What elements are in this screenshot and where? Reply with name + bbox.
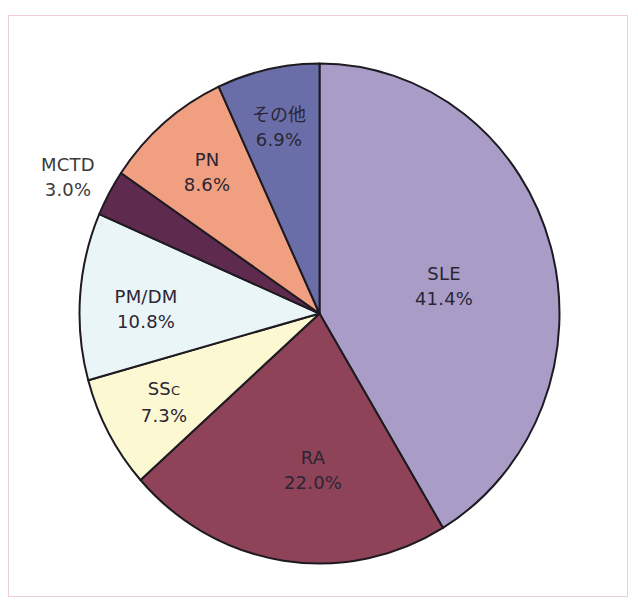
slice-name: PN [184, 147, 231, 172]
slice-name: その他 [252, 102, 307, 127]
slice-percent: 10.8% [115, 309, 178, 334]
label-pn: PN 8.6% [184, 147, 231, 197]
slice-percent: 41.4% [415, 286, 473, 311]
label-other: その他 6.9% [252, 102, 307, 152]
pie-chart [0, 0, 638, 607]
slice-percent: 3.0% [41, 177, 95, 202]
slice-percent: 22.0% [284, 470, 342, 495]
label-pm-dm: PM/DM 10.8% [115, 284, 178, 334]
slice-percent: 8.6% [184, 172, 231, 197]
slice-name: MCTD [41, 152, 95, 177]
label-ra: RA 22.0% [284, 445, 342, 495]
slice-name: SSC [141, 376, 188, 403]
label-sle: SLE 41.4% [415, 261, 473, 311]
label-ssc: SSC 7.3% [141, 376, 188, 428]
slice-percent: 7.3% [141, 403, 188, 428]
slice-name: RA [284, 445, 342, 470]
label-mctd: MCTD 3.0% [41, 152, 95, 202]
slice-percent: 6.9% [252, 127, 307, 152]
slice-name: PM/DM [115, 284, 178, 309]
slice-name-subscript: C [171, 383, 180, 398]
slice-name: SLE [415, 261, 473, 286]
slice-name-main: SS [148, 378, 171, 399]
